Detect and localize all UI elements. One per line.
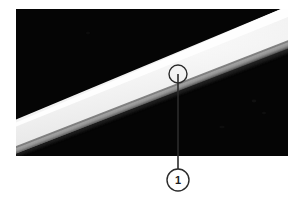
photograph-image: [16, 9, 288, 156]
photograph-plate: [16, 9, 288, 156]
callout-circle[interactable]: [167, 169, 189, 191]
callout-label: 1: [175, 174, 181, 186]
figure-root: 1: [0, 0, 303, 198]
